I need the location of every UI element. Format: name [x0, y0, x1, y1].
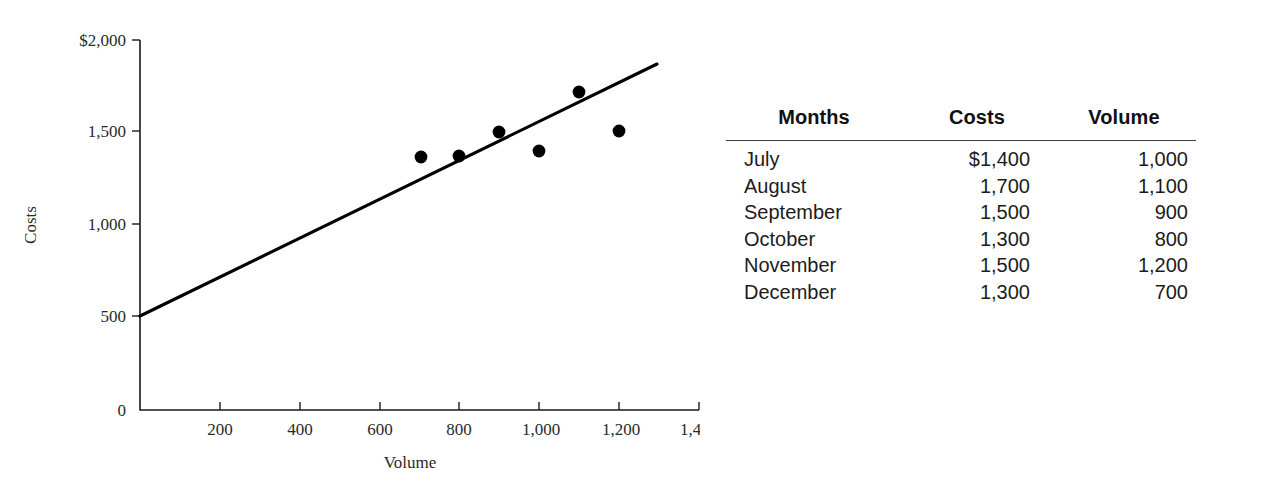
x-tick-label-600: 600: [367, 420, 393, 439]
y-tick-label-0: 0: [118, 401, 127, 420]
y-tick-label-1000: 1,000: [88, 215, 126, 234]
cell-volume: 1,000: [1052, 141, 1196, 173]
cell-cost: $1,400: [902, 141, 1052, 173]
cell-cost: 1,500: [902, 252, 1052, 279]
x-tick-label-1400: 1,400: [680, 420, 700, 439]
y-tick-label-1500: 1,500: [88, 122, 126, 141]
column-header-volume: Volume: [1052, 106, 1196, 138]
cell-cost: 1,300: [902, 226, 1052, 253]
cell-volume: 800: [1052, 226, 1196, 253]
table-row: October 1,300 800: [726, 226, 1196, 253]
cell-cost: 1,300: [902, 279, 1052, 306]
cell-month: December: [726, 279, 902, 306]
x-tick-label-1200: 1,200: [602, 420, 640, 439]
column-header-months: Months: [726, 106, 902, 138]
x-tick-label-1000: 1,000: [522, 420, 560, 439]
column-header-costs: Costs: [902, 106, 1052, 138]
cell-month: October: [726, 226, 902, 253]
data-point-september: [493, 126, 506, 139]
table-row: December 1,300 700: [726, 279, 1196, 306]
cell-month: August: [726, 173, 902, 200]
table-header: Months Costs Volume: [726, 106, 1196, 141]
x-tick-label-800: 800: [446, 420, 472, 439]
scatter-chart-panel: $2,000 1,500 1,000 500 0 200 400 600: [0, 0, 700, 500]
table-row: September 1,500 900: [726, 199, 1196, 226]
regression-line: [140, 64, 657, 316]
table-row: August 1,700 1,100: [726, 173, 1196, 200]
x-axis-title: Volume: [384, 453, 437, 472]
x-axis-tick-labels: 200 400 600 800 1,000 1,200 1,400: [207, 420, 700, 439]
cell-month: September: [726, 199, 902, 226]
y-tick-label-500: 500: [101, 307, 127, 326]
cell-cost: 1,700: [902, 173, 1052, 200]
table-row: July $1,400 1,000: [726, 141, 1196, 173]
y-tick-label-2000: $2,000: [79, 31, 126, 50]
cost-volume-figure: $2,000 1,500 1,000 500 0 200 400 600: [0, 0, 1273, 500]
x-tick-label-200: 200: [207, 420, 233, 439]
cell-volume: 700: [1052, 279, 1196, 306]
chart-axes: [140, 40, 699, 410]
table-row: November 1,500 1,200: [726, 252, 1196, 279]
x-tick-label-400: 400: [287, 420, 313, 439]
cell-cost: 1,500: [902, 199, 1052, 226]
cell-volume: 1,100: [1052, 173, 1196, 200]
scatter-chart-svg: $2,000 1,500 1,000 500 0 200 400 600: [0, 0, 700, 500]
cell-volume: 1,200: [1052, 252, 1196, 279]
axis-lines: [140, 40, 699, 410]
y-axis-ticks: [132, 40, 140, 316]
cost-volume-table: Months Costs Volume July $1,400 1,000 A: [726, 106, 1196, 305]
data-point-november: [613, 125, 626, 138]
cell-month: July: [726, 141, 902, 173]
cell-volume: 900: [1052, 199, 1196, 226]
data-point-december: [415, 151, 428, 164]
cost-volume-table-panel: Months Costs Volume July $1,400 1,000 A: [726, 106, 1204, 305]
table-body: July $1,400 1,000 August 1,700 1,100 Sep…: [726, 141, 1196, 306]
y-axis-title: Costs: [21, 206, 40, 244]
data-point-august: [573, 86, 586, 99]
data-point-july: [533, 145, 546, 158]
y-axis-tick-labels: $2,000 1,500 1,000 500 0: [79, 31, 126, 420]
cell-month: November: [726, 252, 902, 279]
x-axis-ticks: [220, 402, 699, 410]
table-header-row: Months Costs Volume: [726, 106, 1196, 138]
data-point-october: [453, 150, 466, 163]
data-point-series: [415, 86, 626, 164]
